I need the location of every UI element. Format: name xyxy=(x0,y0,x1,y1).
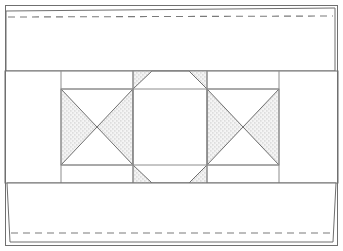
top-band-outline xyxy=(6,8,335,71)
top-sashing-band xyxy=(6,8,335,71)
center-octagon-core xyxy=(133,71,207,183)
center-octagon-block xyxy=(133,71,207,183)
diagram-canvas: Pieced Quilt Block Construction Diagram … xyxy=(0,0,343,251)
quilt-block-diagram xyxy=(0,0,343,251)
bottom-sashing-band xyxy=(7,183,336,242)
